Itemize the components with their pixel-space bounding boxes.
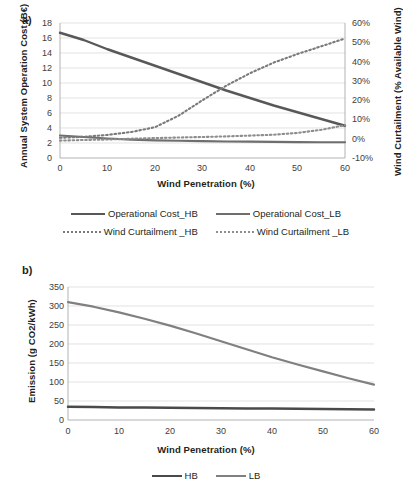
series-operational-cost-hb [60,33,345,126]
panel-a-legend: Operational Cost_HB Operational Cost_LB … [0,208,412,237]
legend-item-hb[interactable]: HB [152,470,198,481]
legend-item-operational-cost-lb[interactable]: Operational Cost_LB [216,208,341,219]
panel-b-gridlines [68,287,374,420]
y-tick: 150 [38,358,64,368]
legend-item-lb[interactable]: LB [216,470,261,481]
x-tick: 50 [318,426,328,436]
y-right-tick: 40% [352,57,370,67]
x-tick: 20 [150,163,160,173]
panel-a-series [60,33,345,143]
chart-panel-b: b) Emission (g CO2/kWh) 0 50 100 150 200… [0,258,412,503]
x-tick: 10 [102,163,112,173]
y-left-tick: 2 [32,138,52,148]
figure-container: a) Annual System Operation Cost (B€) Win… [0,0,412,503]
series-lb [68,302,374,384]
x-tick: 30 [197,163,207,173]
line-swatch-icon [71,213,105,215]
y-right-tick: 50% [352,37,370,47]
y-left-tick: 18 [32,18,52,28]
y-left-tick: 4 [32,123,52,133]
x-tick: 40 [245,163,255,173]
panel-b-letter: b) [22,264,32,276]
dotted-line-swatch-icon [216,231,254,233]
chart-panel-a: a) Annual System Operation Cost (B€) Win… [0,0,412,258]
panel-a-x-axis-title: Wind Penetration (%) [0,178,412,189]
panel-b-plot-area [68,287,374,420]
line-swatch-icon [152,475,182,477]
legend-label: Operational Cost_HB [108,208,198,219]
x-tick: 30 [216,426,226,436]
panel-b-legend-row-1: HB LB [0,470,412,481]
y-tick: 250 [38,320,64,330]
dotted-line-swatch-icon [63,231,101,233]
panel-a-legend-row-1: Operational Cost_HB Operational Cost_LB [0,208,412,219]
x-tick: 0 [65,426,70,436]
y-left-tick: 8 [32,93,52,103]
legend-label: Operational Cost_LB [253,208,341,219]
series-hb [68,407,374,410]
panel-a-y-axis-right-title: Wind Curtailment (% Available Wind) [392,16,403,176]
panel-b-series [68,302,374,409]
panel-b-legend: HB LB [0,470,412,481]
legend-label: Wind Curtailment _LB [257,226,349,237]
series-wind-curtailment-hb [60,39,345,138]
panel-a-legend-row-2: Wind Curtailment _HB Wind Curtailment _L… [0,226,412,237]
y-tick: 350 [38,282,64,292]
y-right-tick: 60% [352,18,370,28]
y-right-tick: 30% [352,76,370,86]
y-left-tick: 16 [32,33,52,43]
y-right-tick: 0% [352,134,365,144]
x-tick: 10 [114,426,124,436]
x-tick: 60 [340,163,350,173]
panel-b-x-axis-title: Wind Penetration (%) [0,444,412,455]
y-right-tick: -10% [352,153,373,163]
legend-item-wind-curtailment-hb[interactable]: Wind Curtailment _HB [63,226,198,237]
y-right-tick: 10% [352,114,370,124]
legend-label: HB [185,470,198,481]
line-swatch-icon [216,475,246,477]
y-left-tick: 12 [32,63,52,73]
y-tick: 0 [38,415,64,425]
legend-item-operational-cost-hb[interactable]: Operational Cost_HB [71,208,198,219]
y-left-tick: 10 [32,78,52,88]
y-tick: 200 [38,339,64,349]
panel-a-y-axis-left-title: Annual System Operation Cost (B€) [18,18,29,168]
panel-b-y-axis-title: Emission (g CO2/kWh) [26,286,37,416]
legend-label: Wind Curtailment _HB [104,226,198,237]
y-left-tick: 14 [32,48,52,58]
panel-a-plot-area [60,23,345,158]
y-tick: 100 [38,377,64,387]
x-tick: 60 [369,426,379,436]
x-tick: 50 [292,163,302,173]
y-right-tick: 20% [352,95,370,105]
legend-label: LB [249,470,261,481]
legend-item-wind-curtailment-lb[interactable]: Wind Curtailment _LB [216,226,349,237]
x-tick: 40 [267,426,277,436]
line-swatch-icon [216,213,250,215]
x-tick: 0 [57,163,62,173]
y-left-tick: 6 [32,108,52,118]
y-tick: 50 [38,396,64,406]
x-tick: 20 [165,426,175,436]
y-tick: 300 [38,301,64,311]
y-left-tick: 0 [32,153,52,163]
